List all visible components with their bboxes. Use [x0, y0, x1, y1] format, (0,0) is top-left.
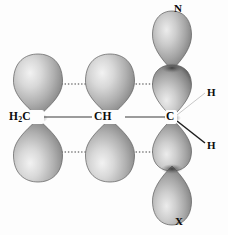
atom-label-left-carbon-c: C: [22, 110, 31, 122]
atom-label-right-carbon: C: [166, 111, 175, 123]
atom-label-hydrogen-lower: H: [207, 140, 216, 151]
orbital-lobe-right-lower: [152, 119, 191, 171]
atom-label-x-substituent: X: [175, 216, 183, 227]
orbital-diagram-figure: H2C CH C N X H H: [0, 0, 228, 235]
orbital-lobe-middle-lower: [85, 119, 134, 182]
atom-label-left-carbon-h: H: [9, 110, 18, 122]
orbital-lobe-left-upper: [13, 54, 62, 117]
orbital-pinch-shadow-right-top: [161, 63, 183, 73]
orbital-lobe-left-lower: [13, 119, 62, 182]
orbital-lobe-nitrogen: [152, 11, 191, 70]
atom-label-left-carbon: H2C: [9, 111, 31, 124]
atom-label-hydrogen-upper: H: [207, 87, 216, 98]
atom-label-middle-carbon: CH: [94, 111, 112, 123]
orbital-lobe-x: [152, 166, 191, 225]
orbital-pinch-shadow-right-bottom: [161, 164, 183, 174]
atom-label-nitrogen: N: [174, 3, 182, 14]
orbital-lobe-middle-upper: [85, 54, 134, 117]
